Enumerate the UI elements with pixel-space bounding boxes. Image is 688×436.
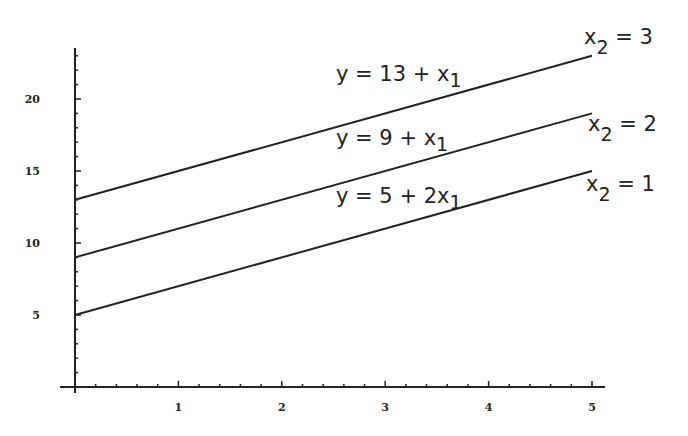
- series-line: [75, 113, 592, 257]
- x-tick-label: 1: [175, 401, 183, 414]
- x-tick-label: 4: [485, 401, 493, 414]
- y-tick-labels: 5101520: [25, 93, 41, 322]
- equation-label-5: y = 5 + 2x1: [336, 184, 462, 213]
- x-tick-label: 3: [381, 401, 389, 414]
- x-tick-label: 5: [588, 401, 596, 414]
- y-tick-label: 20: [25, 93, 41, 106]
- series-line: [75, 56, 592, 200]
- chart: 12345 5101520 y = 13 + x1 y = 9 + x1 y =…: [0, 0, 688, 436]
- equation-label-9: y = 9 + x1: [336, 126, 448, 155]
- y-tick-label: 10: [25, 237, 41, 250]
- x-tick-label: 2: [278, 401, 286, 414]
- x-tick-labels: 12345: [175, 401, 596, 414]
- x2-label-1: x2 = 1: [586, 172, 655, 205]
- y-tick-label: 15: [25, 165, 40, 178]
- x2-label-3: x2 = 3: [584, 25, 653, 58]
- equation-label-13: y = 13 + x1: [336, 62, 462, 91]
- series-line: [75, 171, 592, 315]
- x2-label-2: x2 = 2: [588, 112, 657, 145]
- y-tick-label: 5: [32, 309, 40, 322]
- series-lines: [75, 56, 592, 315]
